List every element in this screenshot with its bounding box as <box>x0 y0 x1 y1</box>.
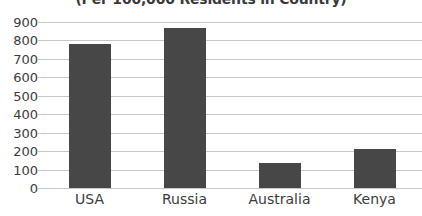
y-axis: 9008007006005004003002001000 <box>0 22 38 188</box>
y-axis-label: 900 <box>2 16 38 29</box>
y-axis-tick <box>38 133 42 134</box>
gridline <box>42 22 422 23</box>
y-axis-label: 200 <box>2 145 38 158</box>
y-axis-label: 400 <box>2 108 38 121</box>
y-axis-label: 800 <box>2 34 38 47</box>
y-axis-tick <box>38 59 42 60</box>
y-axis-tick <box>38 77 42 78</box>
bar-usa[interactable] <box>69 44 111 188</box>
bar-kenya[interactable] <box>354 149 396 188</box>
gridline <box>42 188 422 189</box>
x-axis-label-australia: Australia <box>232 191 327 207</box>
x-axis-label-usa: USA <box>42 191 137 207</box>
bar-chart: (Per 100,000 Residents in Country) 90080… <box>0 0 422 216</box>
x-axis: USARussiaAustraliaKenya <box>42 191 422 216</box>
bar-russia[interactable] <box>164 28 206 188</box>
gridline <box>42 40 422 41</box>
y-axis-tick <box>38 170 42 171</box>
x-axis-label-russia: Russia <box>137 191 232 207</box>
y-axis-tick <box>38 151 42 152</box>
y-axis-tick <box>38 114 42 115</box>
y-axis-label: 0 <box>2 182 38 195</box>
y-axis-label: 500 <box>2 90 38 103</box>
y-axis-tick <box>38 22 42 23</box>
y-axis-tick <box>38 188 42 189</box>
y-axis-tick <box>38 96 42 97</box>
y-axis-label: 300 <box>2 127 38 140</box>
x-axis-label-kenya: Kenya <box>327 191 422 207</box>
chart-subtitle: (Per 100,000 Residents in Country) <box>0 0 422 7</box>
y-axis-label: 100 <box>2 164 38 177</box>
y-axis-tick <box>38 40 42 41</box>
bar-australia[interactable] <box>259 163 301 188</box>
y-axis-label: 600 <box>2 71 38 84</box>
y-axis-label: 700 <box>2 53 38 66</box>
plot-area <box>42 22 422 188</box>
